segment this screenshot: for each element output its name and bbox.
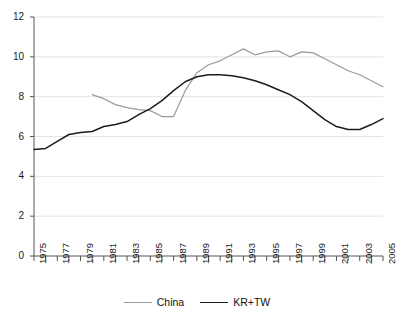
x-axis-tick-label: 2001	[340, 243, 350, 264]
x-axis-tick-label: 1979	[85, 243, 95, 264]
legend-swatch-icon	[124, 302, 152, 303]
y-axis-tick-label: 0	[2, 251, 24, 261]
series-line-kr-tw	[34, 75, 383, 150]
y-axis-tick-label: 12	[2, 12, 24, 22]
x-axis-tick-label: 1985	[154, 243, 164, 264]
series-line-china	[92, 49, 383, 117]
y-axis-tick-label: 2	[2, 211, 24, 221]
legend-swatch-icon	[200, 302, 228, 303]
x-axis-tick-label: 1993	[247, 243, 257, 264]
x-axis-tick-label: 2005	[387, 243, 397, 264]
x-axis-tick-label: 1975	[38, 243, 48, 264]
legend-label: China	[157, 297, 184, 308]
x-axis-tick-label: 1981	[108, 243, 118, 264]
x-axis-tick-label: 1977	[61, 243, 71, 264]
x-axis-tick-label: 1987	[178, 243, 188, 264]
y-axis-tick-label: 6	[2, 132, 24, 142]
x-axis-tick-label: 2003	[364, 243, 374, 264]
x-axis-tick-label: 1983	[131, 243, 141, 264]
legend-label: KR+TW	[233, 297, 270, 308]
legend-item: China	[124, 297, 184, 308]
x-axis-tick-label: 1995	[271, 243, 281, 264]
chart-legend: ChinaKR+TW	[0, 297, 394, 308]
x-axis-tick-label: 1991	[224, 243, 234, 264]
legend-item: KR+TW	[200, 297, 270, 308]
x-axis-tick-label: 1989	[201, 243, 211, 264]
y-axis-tick-label: 10	[2, 52, 24, 62]
x-axis-tick-label: 1999	[317, 243, 327, 264]
y-axis-tick-label: 8	[2, 92, 24, 102]
y-axis-tick-label: 4	[2, 171, 24, 181]
x-axis-tick-label: 1997	[294, 243, 304, 264]
